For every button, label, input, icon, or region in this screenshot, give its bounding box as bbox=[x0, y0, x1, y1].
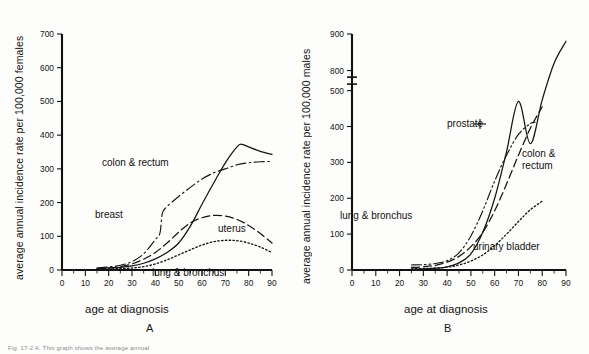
panel-b-curve bbox=[411, 201, 542, 269]
panel-b-x-tick: 20 bbox=[395, 278, 405, 288]
panel-b-y-tick: 800 bbox=[330, 66, 344, 76]
panel-a-y-tick: 400 bbox=[40, 130, 54, 140]
panel-b-curve bbox=[411, 41, 566, 269]
panel-a-x-tick: 60 bbox=[197, 278, 207, 288]
panel-b-x-ticks: 0102030405060708090 bbox=[350, 270, 571, 288]
panel-b-y-tick: 0 bbox=[339, 265, 344, 275]
panel-a-curves bbox=[97, 144, 272, 269]
panel-b-x-axis-label: age at diagnosis bbox=[404, 303, 488, 315]
panel-b: average annual incidence rate per 100,00… bbox=[292, 0, 589, 340]
panel-b-y-tick: 100 bbox=[330, 229, 344, 239]
panel-b-curve bbox=[411, 122, 535, 265]
panel-a-y-tick: 500 bbox=[40, 96, 54, 106]
panel-b-y-tick: 300 bbox=[330, 157, 344, 167]
panel-b-x-tick: 60 bbox=[490, 278, 500, 288]
panel-b-x-tick: 10 bbox=[371, 278, 381, 288]
panel-b-curves bbox=[411, 41, 566, 269]
panel-a-x-tick: 80 bbox=[244, 278, 254, 288]
panel-a-x-axis-label: age at diagnosis bbox=[85, 303, 169, 315]
panel-a: average annual incidence rate per 100,00… bbox=[0, 0, 295, 340]
panel-a-y-tick: 300 bbox=[40, 164, 54, 174]
panel-a-x-tick: 40 bbox=[151, 278, 161, 288]
panel-a-y-ticks: 0100200300400500600700 bbox=[40, 29, 62, 275]
panel-a-x-tick: 10 bbox=[81, 278, 91, 288]
panel-a-svg: 0100200300400500600700 01020304050607080… bbox=[40, 22, 280, 290]
panel-b-x-tick: 50 bbox=[466, 278, 476, 288]
panel-b-axes bbox=[347, 34, 566, 270]
panel-b-svg: 0100200300400500800900 01020304050607080… bbox=[326, 22, 576, 290]
panel-a-x-tick: 70 bbox=[221, 278, 231, 288]
panel-b-x-tick: 40 bbox=[442, 278, 452, 288]
panel-a-y-tick: 200 bbox=[40, 198, 54, 208]
figure-caption: Fig. 17-2 A. This graph shows the averag… bbox=[8, 344, 149, 351]
panel-b-x-tick: 90 bbox=[561, 278, 571, 288]
panel-b-y-axis-label: average annual incidence rate per 100,00… bbox=[300, 22, 312, 284]
panel-b-y-ticks: 0100200300400500800900 bbox=[330, 29, 352, 275]
panel-b-letter: B bbox=[444, 322, 451, 334]
figure-container: average annual incidence rate per 100,00… bbox=[0, 0, 589, 354]
panel-a-x-tick: 50 bbox=[174, 278, 184, 288]
panel-b-x-tick: 0 bbox=[350, 278, 355, 288]
panel-a-x-tick: 90 bbox=[267, 278, 277, 288]
panel-a-y-tick: 100 bbox=[40, 231, 54, 241]
panel-a-x-tick: 30 bbox=[127, 278, 137, 288]
panel-a-plot-area: 0100200300400500600700 01020304050607080… bbox=[40, 22, 280, 290]
panel-b-y-tick: 200 bbox=[330, 193, 344, 203]
panel-b-x-tick: 30 bbox=[419, 278, 429, 288]
panel-a-axes bbox=[62, 34, 272, 270]
panel-b-y-tick: 400 bbox=[330, 122, 344, 132]
panel-a-y-axis-label: average annual incidence rate per 100,00… bbox=[13, 30, 25, 280]
panel-a-x-ticks: 0102030405060708090 bbox=[60, 270, 277, 288]
panel-a-curve bbox=[97, 161, 272, 268]
panel-b-x-tick: 70 bbox=[514, 278, 524, 288]
panel-a-x-tick: 20 bbox=[104, 278, 114, 288]
panel-a-y-tick: 700 bbox=[40, 29, 54, 39]
panel-a-y-tick: 0 bbox=[49, 265, 54, 275]
panel-a-y-tick: 600 bbox=[40, 63, 54, 73]
panel-a-x-tick: 0 bbox=[60, 278, 65, 288]
panel-b-x-tick: 80 bbox=[538, 278, 548, 288]
panel-b-plot-area: 0100200300400500800900 01020304050607080… bbox=[326, 22, 576, 290]
panel-a-letter: A bbox=[146, 322, 153, 334]
panel-b-y-tick: 500 bbox=[330, 86, 344, 96]
panel-b-y-tick: 900 bbox=[330, 29, 344, 39]
